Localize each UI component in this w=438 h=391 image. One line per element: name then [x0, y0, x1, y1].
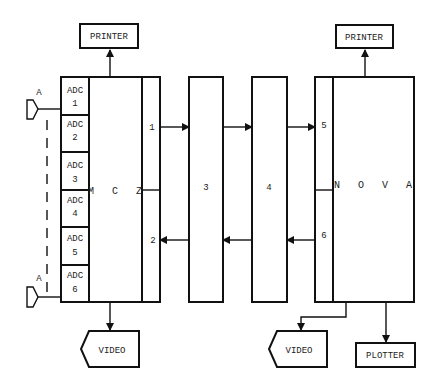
input-a-bottom: A: [27, 274, 61, 307]
svg-text:A: A: [36, 88, 42, 98]
input-connector-icon: [27, 287, 38, 307]
box-3: 3: [189, 77, 223, 302]
port-6-label: 6: [321, 231, 326, 241]
port-2-label: 2: [150, 236, 155, 246]
svg-text:A: A: [36, 274, 42, 284]
svg-text:ADC: ADC: [67, 86, 84, 96]
arrow-nova-to-video: [301, 302, 346, 330]
svg-text:5: 5: [72, 248, 77, 258]
svg-text:1: 1: [72, 99, 77, 109]
printer-left-box: PRINTER: [80, 24, 138, 48]
svg-text:3: 3: [203, 183, 208, 193]
svg-text:4: 4: [72, 209, 77, 219]
video-right-label: VIDEO: [285, 346, 312, 356]
video-right-box: VIDEO: [269, 331, 327, 367]
plotter-box: PLOTTER: [356, 343, 415, 367]
mcz-block: M C Z: [61, 77, 160, 302]
mcz-label: M C Z: [88, 186, 148, 197]
port-1-label: 1: [149, 123, 154, 133]
nova-block: N O V A: [315, 77, 418, 302]
printer-right-box: PRINTER: [336, 25, 393, 48]
svg-text:ADC: ADC: [67, 271, 84, 281]
svg-text:ADC: ADC: [67, 234, 84, 244]
svg-text:2: 2: [72, 133, 77, 143]
port-5-label: 5: [321, 121, 326, 131]
svg-text:4: 4: [266, 183, 271, 193]
svg-text:ADC: ADC: [67, 120, 84, 130]
video-left-label: VIDEO: [98, 346, 125, 356]
input-connector-icon: [27, 100, 38, 119]
svg-text:3: 3: [72, 175, 77, 185]
block-diagram: PRINTER M C Z ADC 1 ADC 2 ADC 3 ADC 4 AD…: [0, 0, 438, 391]
plotter-label: PLOTTER: [366, 351, 404, 361]
nova-label: N O V A: [334, 180, 418, 191]
svg-text:ADC: ADC: [67, 196, 84, 206]
printer-left-label: PRINTER: [90, 32, 128, 42]
svg-text:ADC: ADC: [67, 161, 84, 171]
svg-text:6: 6: [72, 285, 77, 295]
box-4: 4: [252, 77, 287, 302]
video-left-box: VIDEO: [81, 331, 139, 367]
input-a-top: A: [27, 88, 61, 119]
printer-right-label: PRINTER: [345, 33, 383, 43]
